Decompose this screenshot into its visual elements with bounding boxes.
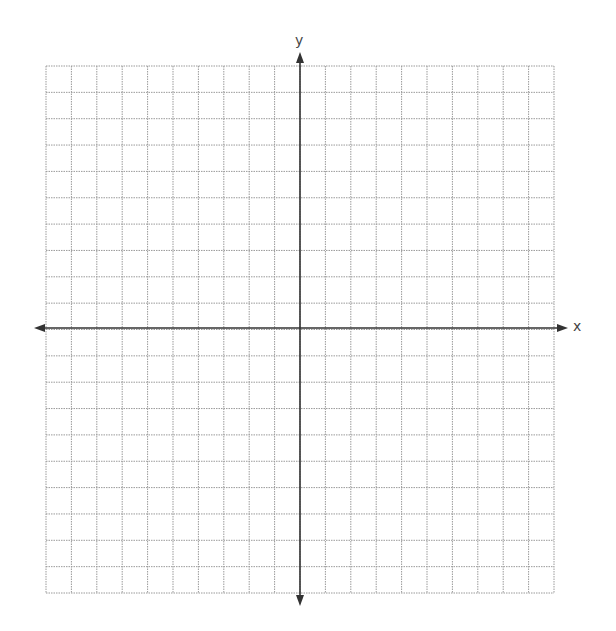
x-axis-label: x (573, 318, 581, 334)
y-axis-up-arrow-icon (296, 52, 304, 63)
x-axis-left-arrow-icon (34, 324, 45, 332)
y-axis-label: y (295, 32, 303, 48)
coordinate-plane (0, 0, 616, 631)
x-axis-right-arrow-icon (557, 324, 568, 332)
y-axis-down-arrow-icon (296, 595, 304, 606)
